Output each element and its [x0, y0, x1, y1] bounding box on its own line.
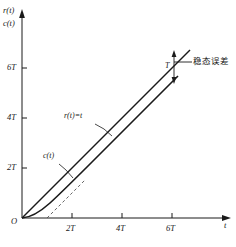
reference-input-label: r(t)=t: [64, 112, 82, 120]
y-tick-marks: [22, 68, 27, 168]
x-axis-label: t: [224, 221, 226, 230]
ramp-response-figure: [0, 0, 236, 247]
error-gap-label: T: [165, 62, 169, 70]
error-arrow-down: [172, 77, 177, 84]
y-tick-label-4T: 4T: [7, 113, 16, 122]
steady-state-error-label: 稳态误差: [193, 54, 229, 66]
output-label-leader: [59, 164, 73, 178]
y-axis-arrowhead: [19, 9, 25, 18]
output-curve-label: c(t): [43, 152, 54, 160]
error-arrow-up: [172, 50, 177, 57]
y-tick-label-2T: 2T: [7, 163, 16, 172]
reference-input-line: [22, 50, 190, 218]
output-response-curve: [22, 76, 178, 218]
x-tick-label-6T: 6T: [166, 224, 175, 233]
y-axis-label-line1: r(t): [3, 6, 14, 15]
steady-state-error-dimension: [172, 50, 192, 84]
x-tick-label-4T: 4T: [116, 224, 125, 233]
x-tick-label-2T: 2T: [66, 224, 75, 233]
asymptote-dashed-line: [47, 180, 85, 218]
y-tick-label-6T: 6T: [7, 63, 16, 72]
x-tick-marks: [72, 213, 172, 218]
origin-label: O: [11, 217, 17, 226]
y-axis-label-line2: c(t): [3, 19, 15, 28]
